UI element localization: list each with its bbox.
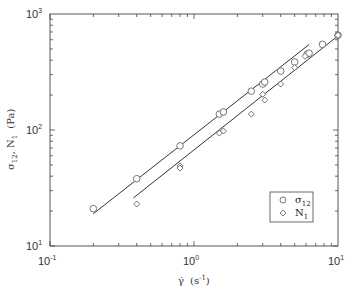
legend: σ12 N1 bbox=[270, 192, 313, 222]
fit-line-0 bbox=[93, 45, 309, 214]
data-point-circle bbox=[319, 41, 326, 48]
data-point-diamond bbox=[278, 81, 284, 87]
x-tick-label-0: 10-1 bbox=[38, 254, 57, 267]
data-point-diamond bbox=[292, 65, 298, 71]
data-point-diamond bbox=[134, 201, 140, 207]
y-tick-label-2: 103 bbox=[26, 7, 42, 20]
x-tick-label-2: 101 bbox=[328, 254, 344, 267]
log-log-scatter-chart: 10-1 100 101 101 102 103 γ̇(s-1) σ12, N1… bbox=[0, 0, 354, 293]
data-point-circle bbox=[133, 175, 140, 182]
y-axis-label: σ12, N1(Pa) bbox=[5, 109, 19, 170]
fit-line-1 bbox=[133, 33, 341, 197]
data-point-circle bbox=[220, 109, 227, 116]
y-tick-label-1: 102 bbox=[26, 123, 42, 136]
data-points bbox=[90, 32, 341, 212]
data-point-circle bbox=[90, 205, 97, 212]
data-point-diamond bbox=[262, 97, 268, 103]
data-point-circle bbox=[277, 68, 284, 75]
fit-lines bbox=[93, 33, 341, 213]
x-tick-label-1: 100 bbox=[183, 254, 199, 267]
data-point-diamond bbox=[248, 111, 254, 117]
x-axis-label: γ̇(s-1) bbox=[178, 274, 210, 286]
data-point-circle bbox=[261, 79, 268, 86]
data-point-circle bbox=[248, 88, 255, 95]
data-point-circle bbox=[177, 143, 184, 150]
y-tick-label-0: 101 bbox=[26, 239, 42, 252]
data-point-diamond bbox=[260, 91, 266, 97]
